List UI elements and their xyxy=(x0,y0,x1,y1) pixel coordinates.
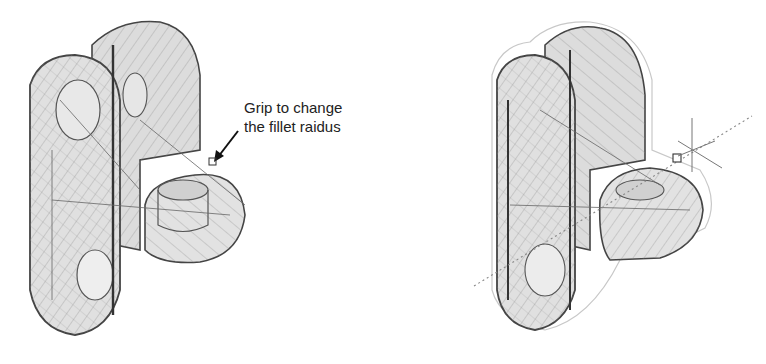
figure: Grip to change the fillet raidus xyxy=(0,0,766,364)
left-wireframe-model xyxy=(30,21,245,335)
diagram-canvas xyxy=(0,0,766,364)
grip-annotation-label: Grip to change the fillet raidus xyxy=(244,98,342,136)
right-wireframe-model xyxy=(492,22,711,330)
annotation-line-2: the fillet raidus xyxy=(244,117,342,136)
annotation-line-1: Grip to change xyxy=(244,98,342,117)
annotation-arrow xyxy=(214,131,238,162)
